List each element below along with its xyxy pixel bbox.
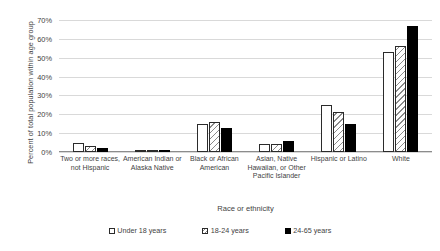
bar	[135, 150, 146, 152]
bar	[159, 150, 170, 152]
legend-label: 24-65 years	[293, 226, 331, 235]
bar	[333, 112, 344, 152]
legend-label: 18-24 years	[211, 226, 249, 235]
bar-chart: Percent of total population within age g…	[0, 0, 440, 251]
x-axis-category-label: Asian, Native Hawaiian, or Other Pacific…	[246, 155, 308, 181]
x-axis-category-label: Two or more races, not Hispanic	[59, 155, 121, 181]
bar	[197, 124, 208, 152]
y-axis-tick-label: 40%	[37, 72, 52, 81]
y-axis-tick-label: 10%	[37, 129, 52, 138]
bar-group	[246, 20, 308, 152]
bar-group	[183, 20, 245, 152]
bar	[259, 144, 270, 152]
bar	[97, 148, 108, 152]
bar	[395, 46, 406, 152]
legend-swatch-icon	[109, 228, 115, 234]
y-axis-tick-label: 0%	[41, 148, 52, 157]
x-axis-title: Race or ethnicity	[59, 204, 432, 213]
legend-swatch-icon	[202, 228, 208, 234]
y-axis-tick-label: 70%	[37, 16, 52, 25]
bar	[345, 124, 356, 152]
y-axis-tick-label: 30%	[37, 91, 52, 100]
bar-group	[59, 20, 121, 152]
bar	[271, 144, 282, 152]
bar-groups	[59, 20, 432, 152]
legend-item[interactable]: 24-65 years	[285, 226, 331, 235]
x-axis-category-label: Hispanic or Latino	[308, 155, 370, 181]
bar	[85, 146, 96, 152]
bar	[221, 128, 232, 153]
bar-group	[121, 20, 183, 152]
bar	[383, 52, 394, 152]
x-axis-category-labels: Two or more races, not HispanicAmerican …	[59, 155, 432, 181]
legend-swatch-icon	[285, 228, 291, 234]
x-axis-category-label: White	[370, 155, 432, 181]
x-axis-category-label: American Indian or Alaska Native	[121, 155, 183, 181]
x-axis-category-label: Black or African American	[183, 155, 245, 181]
bar	[283, 141, 294, 152]
y-axis-tick-label: 20%	[37, 110, 52, 119]
bar-group	[308, 20, 370, 152]
bar	[209, 122, 220, 152]
legend-label: Under 18 years	[117, 226, 166, 235]
gridline	[59, 152, 432, 153]
bar	[407, 26, 418, 152]
bar	[321, 105, 332, 152]
legend-item[interactable]: Under 18 years	[109, 226, 167, 235]
bar	[147, 150, 158, 152]
legend: Under 18 years18-24 years24-65 years	[0, 226, 440, 235]
bar-group	[370, 20, 432, 152]
bar	[73, 143, 84, 152]
y-axis-tick-label: 50%	[37, 53, 52, 62]
legend-item[interactable]: 18-24 years	[202, 226, 248, 235]
y-axis-tick-label: 60%	[37, 34, 52, 43]
y-axis-tick-labels: 0%10%20%30%40%50%60%70%	[24, 20, 56, 152]
